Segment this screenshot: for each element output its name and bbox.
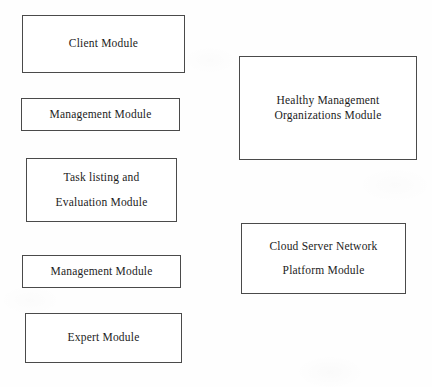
node-management-module-bottom[interactable]: Management Module	[22, 255, 181, 288]
node-task-listing-and-evaluation-module[interactable]: Task listing and Evaluation Module	[26, 158, 177, 222]
node-label-line: Management Module	[50, 266, 152, 278]
node-label-line: Client Module	[69, 38, 138, 50]
node-label-line: Management Module	[49, 109, 151, 121]
node-label-line: Task listing and	[64, 172, 140, 184]
node-label-line: Organizations Module	[275, 110, 382, 122]
node-label-line: Cloud Server Network	[269, 241, 377, 253]
node-label-line: Healthy Management	[277, 95, 380, 107]
diagram-canvas: Client Module Management Module Task lis…	[0, 0, 432, 387]
node-management-module-top[interactable]: Management Module	[21, 98, 180, 131]
node-label-line: Evaluation Module	[56, 197, 148, 209]
node-label-line: Expert Module	[68, 332, 140, 344]
node-expert-module[interactable]: Expert Module	[25, 313, 182, 363]
node-client-module[interactable]: Client Module	[22, 15, 185, 73]
node-cloud-server-network-platform-module[interactable]: Cloud Server Network Platform Module	[241, 223, 406, 294]
node-healthy-management-organizations-module[interactable]: Healthy Management Organizations Module	[239, 56, 417, 160]
node-label-line: Platform Module	[283, 265, 365, 277]
